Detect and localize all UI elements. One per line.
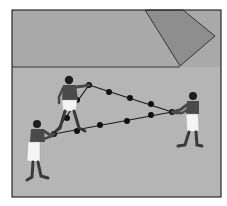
rope-stretchers-illustration	[0, 0, 227, 206]
illustration-canvas: Three figures stretching a knotted rope …	[0, 0, 227, 206]
